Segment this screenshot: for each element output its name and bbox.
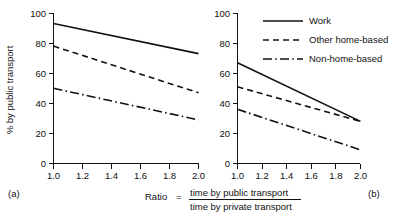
panel-b-x-ticks: 1.0 1.2 1.4 1.6 1.8 2.0 bbox=[231, 164, 367, 182]
y-tick-label-0: 0 bbox=[41, 158, 46, 169]
panel-a-tag: (a) bbox=[8, 188, 20, 199]
x-tick-label-1-0: 1.0 bbox=[47, 170, 60, 181]
y-tick-label-80: 80 bbox=[35, 38, 46, 49]
figure-container: % by public transport 0 20 40 60 80 100 bbox=[0, 0, 401, 219]
legend-item-work: Work bbox=[263, 15, 331, 26]
caption-lead-label: Ratio bbox=[145, 191, 167, 202]
panel-b-series-non-home-based bbox=[238, 109, 361, 150]
x-tick-label-1-4: 1.4 bbox=[105, 170, 118, 181]
y-tick-label-60: 60 bbox=[219, 68, 230, 79]
panel-a-y-ticks: 0 20 40 60 80 100 bbox=[30, 8, 53, 169]
x-tick-label-1-2: 1.2 bbox=[255, 170, 268, 181]
y-tick-label-20: 20 bbox=[219, 128, 230, 139]
legend-item-other-home-based: Other home-based bbox=[263, 34, 388, 45]
legend-label-other-home-based: Other home-based bbox=[309, 34, 388, 45]
panel-a: % by public transport 0 20 40 60 80 100 bbox=[4, 8, 205, 199]
x-axis-title: Ratio = time by public transport time by… bbox=[145, 187, 301, 212]
x-tick-label-1-0: 1.0 bbox=[231, 170, 244, 181]
legend-label-non-home-based: Non-home-based bbox=[309, 53, 382, 64]
x-tick-label-1-8: 1.8 bbox=[329, 170, 342, 181]
caption-denominator: time by private transport bbox=[190, 201, 292, 212]
legend-item-non-home-based: Non-home-based bbox=[263, 53, 382, 64]
y-tick-label-20: 20 bbox=[35, 128, 46, 139]
panel-b-series-work bbox=[238, 63, 361, 122]
x-tick-label-1-4: 1.4 bbox=[280, 170, 293, 181]
x-tick-label-1-8: 1.8 bbox=[163, 170, 176, 181]
panel-a-series-other-home-based bbox=[54, 46, 199, 93]
chart-legend: Work Other home-based Non-home-based bbox=[263, 15, 388, 64]
x-tick-label-1-2: 1.2 bbox=[76, 170, 89, 181]
y-tick-label-60: 60 bbox=[35, 68, 46, 79]
y-tick-label-0: 0 bbox=[225, 158, 230, 169]
caption-numerator: time by public transport bbox=[190, 187, 289, 198]
panel-a-series-non-home-based bbox=[54, 88, 199, 120]
caption-equals-sign: = bbox=[176, 191, 182, 202]
x-tick-label-1-6: 1.6 bbox=[134, 170, 147, 181]
x-tick-label-2-0: 2.0 bbox=[354, 170, 367, 181]
y-tick-label-80: 80 bbox=[219, 38, 230, 49]
x-tick-label-1-6: 1.6 bbox=[305, 170, 318, 181]
panel-b-y-ticks: 0 20 40 60 80 100 bbox=[214, 8, 237, 169]
legend-label-work: Work bbox=[309, 15, 331, 26]
chart-svg: % by public transport 0 20 40 60 80 100 bbox=[0, 0, 401, 219]
panel-b-tag: (b) bbox=[368, 188, 380, 199]
y-tick-label-100: 100 bbox=[30, 8, 46, 19]
x-tick-label-2-0: 2.0 bbox=[192, 170, 205, 181]
y-tick-label-100: 100 bbox=[214, 8, 230, 19]
panel-a-axis-lines bbox=[54, 13, 200, 164]
y-axis-label: % by public transport bbox=[4, 45, 15, 134]
y-tick-label-40: 40 bbox=[219, 98, 230, 109]
panel-a-series-work bbox=[54, 24, 199, 54]
panel-a-x-ticks: 1.0 1.2 1.4 1.6 1.8 2.0 bbox=[47, 164, 205, 182]
y-tick-label-40: 40 bbox=[35, 98, 46, 109]
